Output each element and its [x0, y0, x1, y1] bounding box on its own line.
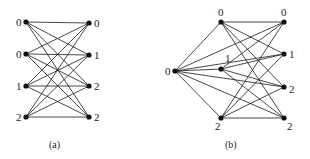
graph-node: [281, 51, 286, 56]
graph-edge: [26, 22, 89, 23]
graph-node: [281, 19, 286, 24]
graph-node: [23, 19, 28, 24]
graph-node: [218, 19, 223, 24]
graph-node: [23, 114, 28, 119]
node-label: 0: [281, 6, 287, 18]
graph-node: [281, 115, 286, 120]
node-label: 2: [94, 80, 100, 92]
graph-node: [172, 68, 177, 73]
graph-node: [86, 20, 91, 25]
graph-b-edges: [175, 22, 284, 118]
node-label: 0: [94, 17, 100, 29]
node-label: 0: [165, 65, 171, 77]
node-label: 0: [16, 16, 22, 28]
graph-node: [86, 83, 91, 88]
graph-node: [218, 66, 223, 71]
graph-node: [23, 83, 28, 88]
graph-edge: [175, 71, 221, 118]
node-label: 1: [225, 52, 231, 64]
node-label: 2: [16, 111, 22, 123]
node-label: 1: [94, 49, 100, 61]
graph-edge: [221, 87, 284, 118]
graph-edge: [175, 71, 284, 118]
graph-node: [86, 114, 91, 119]
graph-edge: [175, 22, 221, 71]
graph-edge: [175, 71, 284, 87]
graph-b-nodes: 00120122: [165, 6, 295, 132]
node-label: 2: [289, 83, 295, 95]
caption-a: (a): [49, 139, 60, 151]
graph-edge: [221, 69, 284, 118]
caption-b: (b): [225, 139, 237, 151]
graph-node: [23, 51, 28, 56]
graph-node: [281, 84, 286, 89]
node-label: 1: [16, 80, 22, 92]
node-label: 0: [16, 48, 22, 60]
graph-edge: [26, 23, 89, 54]
node-label: 1: [289, 48, 295, 60]
node-label: 2: [287, 120, 293, 132]
node-label: 0: [218, 6, 224, 18]
node-label: 2: [215, 120, 221, 132]
graph-a-edges: [26, 22, 89, 117]
graph-edge: [221, 22, 284, 54]
node-label: 2: [94, 111, 100, 123]
graph-node: [86, 52, 91, 57]
bipartite-graph-figure: 00120122 00120122 (a) (b): [0, 0, 310, 159]
graph-edge: [221, 69, 284, 87]
